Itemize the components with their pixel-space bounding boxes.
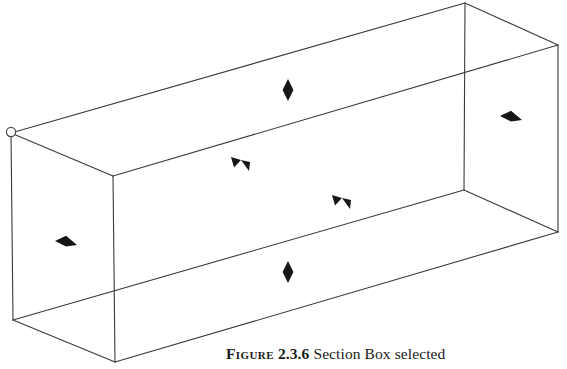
figure-caption: Figure 2.3.6 Section Box selected: [226, 345, 567, 369]
figure-caption-number: 2.3.6: [278, 345, 310, 362]
edge-vertical-far-apex: [464, 3, 465, 190]
edge-top-front-left: [11, 133, 113, 176]
arrow-diagonal-left-icon[interactable]: [231, 157, 250, 171]
edge-top-back-right: [465, 3, 558, 45]
figure-page: Figure 2.3.6 Section Box selected: [0, 0, 567, 369]
edge-bottom-front-left: [13, 320, 115, 362]
edge-vertical-near: [113, 176, 115, 362]
arrow-vertical-bottom-icon[interactable]: [283, 261, 294, 283]
edge-top-back-left: [11, 3, 465, 133]
edge-top-front-right: [113, 45, 558, 176]
edge-vertical-back-left: [11, 133, 13, 320]
arrow-diagonal-right-icon[interactable]: [332, 195, 351, 209]
edge-bottom-front-right: [115, 232, 558, 362]
3d-viewport[interactable]: [0, 0, 567, 369]
edge-bottom-back-right: [464, 190, 558, 232]
figure-caption-label: Figure: [226, 345, 274, 362]
corner-grip-icon[interactable]: [6, 127, 15, 136]
edge-bottom-back-left: [13, 190, 464, 320]
section-box-grips[interactable]: [55, 79, 522, 283]
section-box-edges[interactable]: [11, 3, 558, 362]
arrow-vertical-top-icon[interactable]: [283, 79, 294, 101]
figure-caption-text: Section Box selected: [313, 345, 445, 362]
section-box-wireframe: [0, 0, 567, 369]
arrow-horizontal-front-icon[interactable]: [55, 236, 77, 247]
arrow-horizontal-right-icon[interactable]: [500, 111, 522, 122]
